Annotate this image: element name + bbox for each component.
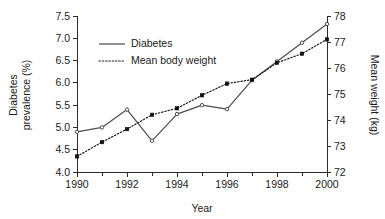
data-point-marker <box>175 107 178 110</box>
line-chart-figure: 4.04.55.05.56.06.57.07.5 72737475767778 … <box>0 0 385 219</box>
x-tick-label: 1996 <box>215 178 239 190</box>
left-tick-label: 7.0 <box>55 32 70 44</box>
left-tick-label: 4.5 <box>55 143 70 155</box>
data-point-marker <box>150 139 153 142</box>
legend-label-2: Mean body weight <box>131 54 216 66</box>
x-tick-label: 1992 <box>115 178 139 190</box>
x-tick-label: 2000 <box>315 178 339 190</box>
y-axis-title-line1: Diabetes <box>7 74 19 115</box>
right-tick-label: 74 <box>334 114 346 126</box>
left-axis-ticks: 4.04.55.05.56.06.57.07.5 <box>55 10 77 178</box>
right-tick-label: 73 <box>334 140 346 152</box>
data-point-marker <box>225 82 228 85</box>
right-tick-label: 75 <box>334 88 346 100</box>
data-point-marker <box>325 22 328 25</box>
data-point-marker <box>100 140 103 143</box>
left-tick-label: 4.0 <box>55 166 70 178</box>
right-tick-label: 77 <box>334 36 346 48</box>
data-point-marker <box>200 94 203 97</box>
data-point-marker <box>250 78 253 81</box>
right-tick-label: 76 <box>334 62 346 74</box>
data-point-marker <box>275 61 278 64</box>
left-tick-label: 6.5 <box>55 54 70 66</box>
x-axis-ticks: 199019921994199619982000 <box>65 172 339 190</box>
left-tick-label: 5.5 <box>55 99 70 111</box>
x-tick-label: 1994 <box>165 178 189 190</box>
right-axis-ticks: 72737475767778 <box>327 10 346 178</box>
x-tick-label: 1990 <box>65 178 89 190</box>
y2-axis-title: Mean weight (kg) <box>369 55 381 136</box>
right-tick-label: 72 <box>334 166 346 178</box>
data-point-marker <box>300 41 303 44</box>
data-point-marker <box>175 112 178 115</box>
chart-legend: DiabetesMean body weight <box>99 37 216 66</box>
data-point-marker <box>100 126 103 129</box>
data-point-marker <box>225 107 228 110</box>
data-point-marker <box>125 108 128 111</box>
data-point-marker <box>200 103 203 106</box>
y-axis-title-line2: prevalence (%) <box>20 60 32 131</box>
series-line-1 <box>77 24 327 141</box>
chart-container: 4.04.55.05.56.06.57.07.5 72737475767778 … <box>0 0 385 219</box>
data-point-marker <box>325 38 328 41</box>
left-tick-label: 7.5 <box>55 10 70 22</box>
data-point-marker <box>300 52 303 55</box>
left-tick-label: 6.0 <box>55 76 70 88</box>
right-tick-label: 78 <box>334 10 346 22</box>
x-axis-title: Year <box>191 202 213 214</box>
x-tick-label: 1998 <box>265 178 289 190</box>
left-tick-label: 5.0 <box>55 121 70 133</box>
legend-label-1: Diabetes <box>131 37 172 49</box>
data-point-marker <box>75 155 78 158</box>
data-series-group <box>75 22 328 158</box>
data-point-marker <box>125 127 128 130</box>
data-point-marker <box>75 130 78 133</box>
data-point-marker <box>150 113 153 116</box>
